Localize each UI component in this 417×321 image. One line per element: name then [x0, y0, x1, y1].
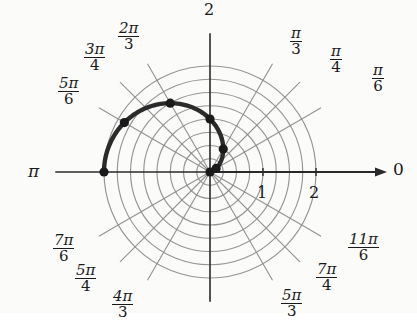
axis-label-top-two: 2	[204, 2, 214, 18]
radial-tick-label-two: 2	[309, 185, 319, 201]
grid-ray	[118, 172, 210, 225]
angle-label-denominator: 3	[118, 37, 139, 52]
angle-label-7pi-over-6: 7π6	[53, 233, 74, 264]
angle-label-3pi-over-4: 3π4	[84, 42, 105, 73]
grid-ray	[210, 172, 263, 264]
grid-ray	[210, 172, 285, 247]
angle-label-leader	[285, 82, 300, 97]
polar-axis-arrowhead	[375, 167, 387, 176]
angle-label-denominator: 3	[290, 42, 302, 57]
polar-data-points	[99, 99, 227, 177]
angle-label-denominator: 6	[58, 92, 79, 107]
angle-label-7pi-over-4: 7π4	[316, 262, 337, 293]
angle-label-leader	[99, 108, 118, 119]
angle-label-leader	[302, 225, 321, 236]
grid-ray	[210, 172, 302, 225]
data-point	[166, 99, 175, 108]
angle-label-4pi-over-3: 4π3	[112, 289, 133, 320]
angle-label-5pi-over-4: 5π4	[75, 263, 96, 294]
angle-label-leader	[302, 108, 321, 119]
angle-label-leader	[120, 82, 135, 97]
data-point	[99, 167, 108, 176]
data-point	[212, 164, 221, 173]
radial-tick-label-one: 1	[257, 185, 267, 201]
data-point	[205, 114, 214, 123]
data-point	[219, 144, 228, 153]
angle-label-denominator: 6	[372, 79, 384, 94]
data-point	[120, 118, 129, 127]
angle-label-leader	[263, 264, 273, 281]
angle-label-leader	[147, 64, 157, 81]
angle-label-pi-over-4: π4	[330, 44, 342, 75]
angle-label-leader	[147, 264, 157, 281]
angle-label-5pi-over-3: 5π3	[281, 288, 302, 319]
angle-label-denominator: 3	[112, 305, 133, 320]
grid-ray	[157, 80, 210, 172]
angle-label-denominator: 6	[348, 248, 379, 263]
grid-ray	[118, 119, 210, 172]
axis-label-zero: 0	[393, 161, 404, 178]
angle-label-leader	[263, 64, 273, 81]
angle-label-pi-over-6: π6	[372, 63, 384, 94]
angle-label-leader	[99, 225, 118, 236]
angle-label-leader	[120, 247, 135, 262]
angle-label-5pi-over-6: 5π6	[58, 76, 79, 107]
grid-ray	[135, 172, 210, 247]
angle-label-denominator: 4	[330, 60, 342, 75]
axis-label-pi: π	[28, 163, 39, 180]
angle-label-11pi-over-6: 11π6	[348, 232, 379, 263]
angle-label-denominator: 4	[84, 58, 105, 73]
angle-label-leader	[285, 247, 300, 262]
angle-label-2pi-over-3: 2π3	[118, 21, 139, 52]
angle-label-denominator: 3	[281, 304, 302, 319]
grid-ray	[157, 172, 210, 264]
angle-label-pi-over-3: π3	[290, 26, 302, 57]
angle-label-denominator: 4	[75, 279, 96, 294]
angle-label-denominator: 6	[53, 249, 74, 264]
angle-label-denominator: 4	[316, 278, 337, 293]
